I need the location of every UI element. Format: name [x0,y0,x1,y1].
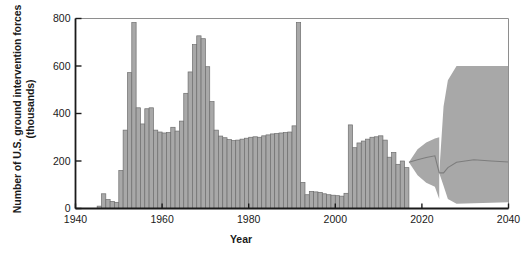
bar [119,171,123,209]
bar [283,133,287,209]
bar [266,135,270,209]
bar [214,130,218,208]
bar [292,126,296,209]
y-tick-label: 800 [53,12,71,24]
bar [396,164,400,208]
bar [262,136,266,209]
x-tick-label: 2020 [410,213,434,225]
bar [127,73,131,209]
bar [197,36,201,209]
projection-band [409,137,439,199]
plot-canvas: 0200400600800194019601980200020202040 [0,0,524,254]
bar [344,193,348,208]
bar [231,141,235,209]
chart-figure: Number of U.S. ground intervention force… [0,0,524,254]
bar [227,140,231,209]
projection-band-group [409,66,509,204]
bar [244,138,248,208]
bar [309,191,313,208]
bar-series-group [97,23,409,209]
bar [210,102,214,209]
x-tick-label: 2040 [497,213,521,225]
bar [236,140,240,208]
bar [188,72,192,209]
bar [240,139,244,208]
bar [279,133,283,209]
bar [296,23,300,209]
bar [357,143,361,209]
y-tick-label: 600 [53,60,71,72]
bar [361,141,365,208]
bar [370,137,374,208]
bar [166,133,170,209]
bar [257,137,261,208]
bar [405,168,409,209]
bar [327,195,331,209]
y-tick-label: 200 [53,155,71,167]
bar [192,45,196,209]
bar [158,132,162,208]
bar [205,67,209,209]
bar [101,194,105,209]
bar [145,109,149,209]
bar [223,138,227,209]
bar [387,157,391,208]
bar [374,137,378,209]
bar [353,148,357,209]
bar [171,127,175,208]
y-tick-label: 400 [53,107,71,119]
bar [301,182,305,208]
bar [162,133,166,209]
x-tick-label: 1940 [64,213,88,225]
projection-band [439,66,508,204]
bar [275,133,279,208]
bar [400,161,404,209]
bar [379,136,383,209]
x-tick-label: 2000 [324,213,348,225]
bar [106,199,110,208]
bar [201,39,205,209]
bar [140,124,144,209]
bar [110,201,114,208]
bar [184,93,188,208]
x-tick-label: 1960 [150,213,174,225]
bar [249,137,253,208]
bar [179,121,183,208]
bar [136,108,140,209]
bar [149,108,153,209]
bar [288,132,292,208]
bar [270,134,274,209]
bar [348,125,352,209]
bar [218,136,222,208]
bar [340,196,344,208]
bar [318,192,322,208]
bar [314,192,318,209]
bar [153,130,157,208]
bar [175,131,179,208]
bar [322,194,326,209]
bar [392,152,396,208]
bar [305,195,309,209]
bar [383,140,387,208]
x-tick-label: 1980 [237,213,261,225]
bar [123,130,127,208]
bar [366,139,370,208]
bar [253,137,257,209]
bar [132,23,136,209]
bar [114,202,118,208]
